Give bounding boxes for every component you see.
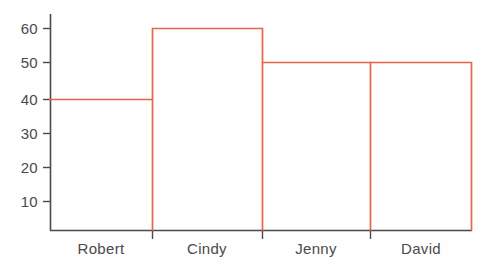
histogram-chart: 60 50 40 30 20 10 Robert Cindy Jenny Dav… bbox=[0, 0, 480, 266]
y-tick-label-10: 10 bbox=[0, 193, 38, 210]
x-tick-label-jenny: Jenny bbox=[262, 240, 370, 257]
y-tick-label-20: 20 bbox=[0, 159, 38, 176]
bar-series bbox=[50, 29, 472, 231]
bar-cindy bbox=[153, 29, 263, 231]
y-axis-ticks bbox=[43, 29, 50, 202]
y-tick-label-40: 40 bbox=[0, 91, 38, 108]
x-tick-label-david: David bbox=[370, 240, 472, 257]
bar-david bbox=[371, 63, 472, 231]
bar-jenny bbox=[263, 63, 371, 231]
y-tick-label-30: 30 bbox=[0, 125, 38, 142]
y-tick-label-50: 50 bbox=[0, 54, 38, 71]
x-tick-label-robert: Robert bbox=[50, 240, 152, 257]
y-tick-label-60: 60 bbox=[0, 20, 38, 37]
chart-plot-area bbox=[0, 0, 480, 266]
x-tick-label-cindy: Cindy bbox=[152, 240, 262, 257]
x-axis-ticks bbox=[153, 230, 371, 239]
